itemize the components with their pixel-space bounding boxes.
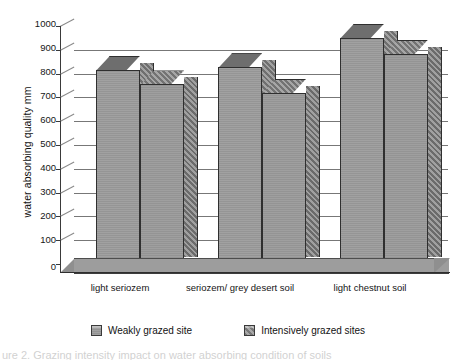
bar-side-face [184, 77, 198, 257]
legend-label-intensively-grazed-sites: Intensively grazed sites [261, 325, 365, 336]
y-tick-label-0: 0 [22, 262, 56, 271]
legend-swatch-icon-series-b [244, 325, 255, 336]
bar-front-face [218, 67, 262, 264]
legend-label-weakly-grazed-site: Weakly grazed site [108, 325, 192, 336]
y-tick-label-100: 100 [22, 235, 56, 244]
bar-light-chestnut-soil-intensively-grazed[interactable] [384, 54, 428, 264]
bar-top-face [340, 24, 384, 39]
y-tick-label-900: 900 [22, 43, 56, 52]
bar-light-seriozem-weakly-grazed[interactable] [96, 70, 140, 264]
bar-side-face [428, 47, 442, 257]
bar-front-face [340, 38, 384, 264]
y-tick-label-600: 600 [22, 115, 56, 124]
bar-front-face [262, 93, 306, 264]
bars-layer [60, 18, 448, 264]
bar-front-face [96, 70, 140, 264]
bar-chart-figure: water absorbing quality mm 1000 900 800 … [0, 0, 456, 360]
bar-seriozem-grey-desert-soil-intensively-grazed[interactable] [262, 93, 306, 264]
bar-front-face [384, 54, 428, 264]
y-tick-label-700: 700 [22, 91, 56, 100]
legend-swatch-icon-series-a [91, 325, 102, 336]
chart-floor-plate [60, 258, 450, 280]
plot-area [60, 18, 448, 272]
y-tick-label-500: 500 [22, 139, 56, 148]
bar-front-face [140, 84, 184, 264]
category-label-light-seriozem: light seriozem [60, 282, 180, 293]
bar-side-face [306, 86, 320, 257]
legend-item-weakly-grazed-site[interactable]: Weakly grazed site [91, 325, 192, 336]
bar-top-face [218, 53, 262, 68]
legend-item-intensively-grazed-sites[interactable]: Intensively grazed sites [244, 325, 365, 336]
bar-top-face [96, 56, 140, 71]
y-tick-label-400: 400 [22, 163, 56, 172]
x-axis-baseline [60, 272, 450, 273]
y-axis-title: water absorbing quality mm [21, 47, 33, 257]
bar-light-seriozem-intensively-grazed[interactable] [140, 84, 184, 264]
chart-legend: Weakly grazed site Intensively grazed si… [0, 320, 456, 340]
y-tick-label-300: 300 [22, 187, 56, 196]
bar-light-chestnut-soil-weakly-grazed[interactable] [340, 38, 384, 264]
figure-caption: ure 2. Grazing intensity impact on water… [2, 349, 454, 360]
category-label-seriozem-grey-desert-soil: seriozem/ grey desert soil [185, 282, 295, 293]
y-tick-label-200: 200 [22, 211, 56, 220]
y-tick-label-800: 800 [22, 67, 56, 76]
bar-seriozem-grey-desert-soil-weakly-grazed[interactable] [218, 67, 262, 264]
floor-left-wedge [60, 258, 75, 273]
category-label-light-chestnut-soil: light chestnut soil [305, 282, 435, 293]
y-tick-label-1000: 1000 [22, 19, 56, 28]
